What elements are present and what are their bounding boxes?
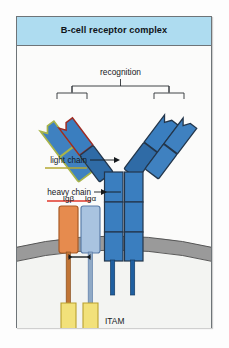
heavy-chain-left-transmembrane-stalk: [111, 260, 115, 295]
itam-label: ITAM: [105, 316, 124, 326]
ig-beta-ig-domain: [59, 206, 78, 253]
figure-title-bar: B-cell receptor complex: [17, 17, 211, 46]
stem-left-domain-1: [105, 172, 124, 202]
stem-right-domain-2: [125, 202, 144, 232]
screenshot-canvas: B-cell receptor complex: [0, 0, 229, 348]
recognition-label: recognition: [100, 67, 141, 77]
diagram-canvas: recognition: [17, 46, 211, 328]
figure-panel: B-cell receptor complex: [16, 16, 212, 328]
ig-alpha-ig-domain: [81, 206, 100, 253]
figure-title: B-cell receptor complex: [61, 26, 167, 35]
recognition-bracket-left: [57, 93, 87, 99]
stem-left-domain-3: [105, 232, 124, 261]
ig-alpha-itam-motif: [83, 303, 98, 328]
recognition-bracket-outer: [72, 86, 169, 92]
recognition-bracket-right: [154, 93, 184, 99]
stem-right-domain-3: [125, 232, 144, 261]
recognition-bracket-group: [57, 79, 184, 99]
light-chain-leader-arrow: [114, 157, 120, 163]
stem-left-domain-2: [105, 202, 124, 232]
ig-alpha-label: Igα: [85, 194, 97, 203]
ig-beta-itam-motif: [61, 303, 76, 328]
bcr-diagram-svg: recognition: [17, 46, 211, 328]
heavy-chain-right-transmembrane-stalk: [131, 260, 135, 295]
ig-beta-label: Igβ: [63, 194, 75, 203]
stem-right-domain-1: [125, 172, 144, 202]
light-chain-label: light chain: [50, 156, 87, 165]
